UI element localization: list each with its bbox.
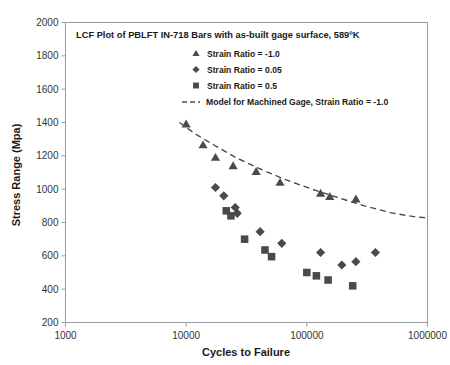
x-axis: 1000100001000001000000 bbox=[54, 323, 447, 341]
lcf-scatter-plot: 200400600800100012001400160018002000 100… bbox=[0, 0, 450, 365]
data-point-square bbox=[303, 269, 311, 277]
data-point-diamond bbox=[337, 260, 346, 269]
y-tick-label: 1800 bbox=[36, 50, 59, 61]
data-point-diamond bbox=[351, 257, 360, 266]
data-point-triangle bbox=[182, 120, 191, 128]
model-trend-line bbox=[179, 123, 427, 218]
legend-diamond-icon bbox=[192, 66, 199, 73]
data-point-triangle bbox=[351, 195, 360, 203]
x-tick-label: 100000 bbox=[290, 330, 324, 341]
legend-entry: Model for Machined Gage, Strain Ratio = … bbox=[182, 97, 388, 107]
legend-entry: Strain Ratio = -1.0 bbox=[192, 49, 280, 59]
legend-label: Strain Ratio = -1.0 bbox=[207, 49, 280, 59]
legend-triangle-icon bbox=[192, 50, 199, 56]
data-point-triangle bbox=[211, 153, 220, 161]
chart-legend: Strain Ratio = -1.0Strain Ratio = 0.05St… bbox=[182, 49, 388, 107]
data-point-triangle bbox=[229, 161, 238, 169]
data-point-diamond bbox=[277, 239, 286, 248]
series-square bbox=[223, 207, 357, 290]
x-tick-label: 1000 bbox=[54, 330, 77, 341]
y-tick-label: 1000 bbox=[36, 184, 59, 195]
y-tick-label: 200 bbox=[42, 317, 59, 328]
y-tick-label: 1400 bbox=[36, 117, 59, 128]
legend-label: Strain Ratio = 0.05 bbox=[207, 65, 282, 75]
chart-title: LCF Plot of PBLFT IN-718 Bars with as-bu… bbox=[76, 30, 360, 40]
legend-entry: Strain Ratio = 0.05 bbox=[192, 65, 282, 75]
data-point-square bbox=[349, 282, 357, 290]
data-point-diamond bbox=[211, 183, 220, 192]
data-point-square bbox=[313, 272, 321, 280]
y-tick-label: 400 bbox=[42, 284, 59, 295]
y-tick-label: 1200 bbox=[36, 150, 59, 161]
data-point-diamond bbox=[219, 191, 228, 200]
y-tick-label: 600 bbox=[42, 250, 59, 261]
data-point-square bbox=[324, 276, 332, 284]
legend-square-icon bbox=[193, 83, 199, 89]
data-point-square bbox=[268, 253, 276, 261]
data-point-square bbox=[241, 235, 249, 243]
series-diamond bbox=[211, 183, 380, 270]
legend-label: Strain Ratio = 0.5 bbox=[207, 81, 277, 91]
legend-entry: Strain Ratio = 0.5 bbox=[193, 81, 277, 91]
y-axis-title: Stress Range (Mpa) bbox=[10, 123, 22, 226]
y-axis: 200400600800100012001400160018002000 bbox=[36, 17, 65, 328]
data-point-square bbox=[227, 212, 235, 220]
y-tick-label: 1600 bbox=[36, 84, 59, 95]
data-point-diamond bbox=[256, 227, 265, 236]
data-point-square bbox=[261, 246, 269, 254]
y-tick-label: 800 bbox=[42, 217, 59, 228]
x-tick-label: 1000000 bbox=[408, 330, 447, 341]
data-series-layer bbox=[182, 120, 380, 290]
x-axis-title: Cycles to Failure bbox=[202, 346, 290, 358]
data-point-triangle bbox=[198, 140, 207, 148]
series-triangle bbox=[182, 120, 361, 203]
x-tick-label: 10000 bbox=[172, 330, 200, 341]
data-point-triangle bbox=[275, 178, 284, 186]
data-point-diamond bbox=[371, 248, 380, 257]
y-tick-label: 2000 bbox=[36, 17, 59, 28]
chart-figure: 200400600800100012001400160018002000 100… bbox=[0, 0, 450, 365]
legend-label: Model for Machined Gage, Strain Ratio = … bbox=[206, 97, 388, 107]
data-point-diamond bbox=[316, 248, 325, 257]
